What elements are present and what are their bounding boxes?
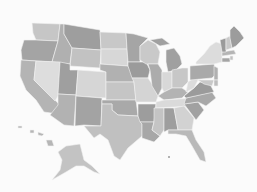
us-choropleth-map: WashingtonOregonCaliforniaIdahoNevadaMon… [0, 0, 257, 192]
state-ny[interactable]: New York [196, 42, 222, 64]
state-ks[interactable]: Kansas [106, 82, 136, 100]
state-ct[interactable]: Connecticut [222, 58, 230, 62]
state-wy[interactable]: Wyoming [70, 48, 101, 68]
states-layer: WashingtonOregonCaliforniaIdahoNevadaMon… [18, 23, 244, 180]
state-ia[interactable]: Iowa [128, 62, 150, 78]
state-hi[interactable]: Hawaii [18, 126, 54, 146]
map-container: WashingtonOregonCaliforniaIdahoNevadaMon… [0, 0, 257, 192]
state-nd[interactable]: North Dakota [100, 32, 127, 49]
state-nm[interactable]: New Mexico [75, 96, 102, 126]
state-oh[interactable]: Ohio [172, 68, 188, 88]
state-sd[interactable]: South Dakota [101, 49, 128, 66]
state-co[interactable]: Colorado [76, 70, 106, 98]
state-nj[interactable]: New Jersey [214, 66, 218, 80]
state-ar[interactable]: Arkansas [138, 104, 156, 122]
state-wa[interactable]: Washington [32, 23, 60, 41]
markers-layer [168, 156, 170, 158]
state-me[interactable]: Maine [230, 26, 244, 48]
state-fl[interactable]: Florida [168, 130, 206, 162]
state-de[interactable]: Delaware [214, 80, 218, 86]
state-pa[interactable]: Pennsylvania [190, 64, 216, 80]
state-or[interactable]: Oregon [21, 40, 58, 62]
state-ut[interactable]: Utah [58, 62, 78, 95]
state-ky[interactable]: Kentucky [158, 88, 188, 100]
state-ri[interactable]: Rhode Island [230, 56, 233, 60]
marker-dot [168, 156, 170, 158]
state-ak[interactable]: Alaska [52, 144, 100, 180]
